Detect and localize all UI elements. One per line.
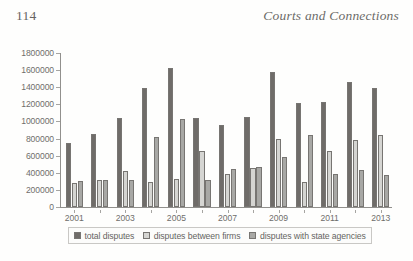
y-axis-tick-mark <box>56 207 60 208</box>
x-axis-tick-mark <box>355 210 356 213</box>
bar-group-2007 <box>219 53 236 207</box>
bar <box>193 118 198 207</box>
legend-label: total disputes <box>85 231 135 241</box>
y-axis-tick-mark <box>56 104 60 105</box>
y-axis-tick-label: 200000 <box>26 185 54 195</box>
x-axis-tick-label: 2001 <box>65 213 84 223</box>
bar <box>276 139 281 207</box>
y-axis-tick-label: 1800000 <box>21 48 54 58</box>
bar-group-2008 <box>244 53 261 207</box>
bar <box>296 103 301 207</box>
y-axis-tick-label: 1000000 <box>21 116 54 126</box>
y-axis-tick-mark <box>56 139 60 140</box>
y-axis-tick-label: 800000 <box>26 134 54 144</box>
bar <box>180 119 185 207</box>
chart-legend: total disputesdisputes between firmsdisp… <box>68 227 372 244</box>
bar <box>384 175 389 208</box>
bar-group-2001 <box>66 53 83 207</box>
x-axis-tick-label: 2013 <box>371 213 390 223</box>
y-axis-tick-mark <box>56 87 60 88</box>
bar <box>66 143 71 207</box>
bar <box>219 125 224 207</box>
legend-label: disputes between firms <box>154 231 241 241</box>
y-axis-tick-mark <box>56 173 60 174</box>
y-axis-tick-label: 1600000 <box>21 65 54 75</box>
y-axis-line <box>60 53 61 208</box>
bar <box>103 180 108 207</box>
x-axis-tick-mark <box>151 210 152 213</box>
x-axis-tick-label: 2011 <box>320 213 338 223</box>
y-axis-tick-label: 600000 <box>26 151 54 161</box>
bar <box>347 82 352 207</box>
y-axis-tick-mark <box>56 156 60 157</box>
bar <box>142 88 147 207</box>
x-axis-tick-label: 2009 <box>269 213 288 223</box>
bar-group-2006 <box>193 53 210 207</box>
bar <box>72 183 77 207</box>
y-axis-tick-label: 0 <box>49 202 54 212</box>
bar <box>308 135 313 207</box>
bar <box>91 134 96 207</box>
running-head: Courts and Connections <box>263 8 399 24</box>
bar <box>244 117 249 207</box>
bar <box>154 137 159 207</box>
y-axis-tick-mark <box>56 121 60 122</box>
y-axis-tick-label: 1400000 <box>21 82 54 92</box>
bar <box>327 151 332 207</box>
bar <box>123 171 128 207</box>
bar <box>353 140 358 207</box>
bar <box>168 68 173 207</box>
bar <box>199 151 204 207</box>
legend-swatch-icon <box>249 232 256 239</box>
legend-item: disputes between firms <box>143 231 240 241</box>
plot-area <box>60 53 392 208</box>
bar <box>231 169 236 207</box>
bar <box>359 170 364 207</box>
bar <box>205 180 210 207</box>
legend-item: disputes with state agencies <box>249 231 365 241</box>
legend-item: total disputes <box>74 231 134 241</box>
bar-group-2010 <box>296 53 313 207</box>
bar-group-2012 <box>347 53 364 207</box>
bar-chart-figure: 1800000160000014000001200000100000080000… <box>6 44 406 256</box>
bar <box>321 102 326 207</box>
y-axis-tick-mark <box>56 190 60 191</box>
y-axis-tick-mark <box>56 53 60 54</box>
x-axis-labels: 2001200320052007200920112013 <box>60 210 392 224</box>
legend-swatch-icon <box>74 232 81 239</box>
page-header: 114 Courts and Connections <box>0 8 413 30</box>
x-axis-line <box>60 207 392 208</box>
bar-group-2005 <box>168 53 185 207</box>
bar <box>225 174 230 207</box>
bar-group-2004 <box>142 53 159 207</box>
bar-group-2002 <box>91 53 108 207</box>
bar <box>302 182 307 207</box>
bar-group-2013 <box>372 53 389 207</box>
x-axis-tick-mark <box>304 210 305 213</box>
bar <box>270 72 275 207</box>
y-axis-tick-label: 400000 <box>26 168 54 178</box>
bar <box>372 88 377 207</box>
x-axis-tick-label: 2003 <box>116 213 135 223</box>
bar-group-2009 <box>270 53 287 207</box>
bar <box>78 181 83 207</box>
x-axis-tick-label: 2007 <box>218 213 237 223</box>
page-number: 114 <box>16 8 36 24</box>
x-axis-tick-mark <box>253 210 254 213</box>
y-axis-tick-label: 1200000 <box>21 99 54 109</box>
x-axis-tick-mark <box>202 210 203 213</box>
bar <box>174 179 179 207</box>
bar <box>97 180 102 207</box>
bar <box>148 182 153 207</box>
bar-group-2011 <box>321 53 338 207</box>
y-axis-tick-mark <box>56 70 60 71</box>
bar <box>282 157 287 207</box>
y-axis-labels: 1800000160000014000001200000100000080000… <box>6 53 54 208</box>
legend-label: disputes with state agencies <box>260 231 366 241</box>
x-axis-tick-mark <box>100 210 101 213</box>
bar <box>250 168 255 207</box>
x-axis-tick-label: 2005 <box>167 213 186 223</box>
bar <box>256 167 261 207</box>
bar <box>117 118 122 207</box>
bar-group-2003 <box>117 53 134 207</box>
